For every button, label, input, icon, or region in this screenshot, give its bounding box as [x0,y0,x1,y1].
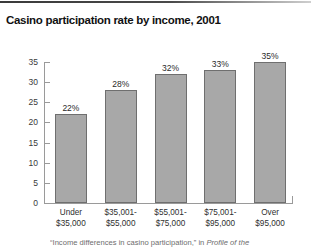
category-label-line: Over [242,208,298,219]
y-axis-tick [45,203,50,204]
x-axis-category-label: Under$35,000 [43,208,99,229]
bar-value-label: 33% [198,59,242,69]
y-axis-tick [45,102,50,103]
bar-rect [105,90,137,203]
bar-value-label: 32% [149,63,193,73]
y-axis-tick [45,143,50,144]
bar[interactable]: 35% [254,62,286,203]
category-label-line: $55,001- [143,208,199,219]
category-label-line: $55,000 [93,219,149,230]
category-label-line: $95,000 [192,219,248,230]
source-note: “Income differences in casino participat… [50,238,305,247]
bar-series: 22%28%32%33%35% [44,62,293,204]
bar-value-label: 28% [99,79,143,89]
bar[interactable]: 22% [55,114,87,203]
y-axis-tick-label: 20 [22,118,38,127]
y-axis-tick-label: 35 [22,58,38,67]
y-axis-tick-label: 30 [22,78,38,87]
y-axis-tick [45,62,50,63]
bar-rect [204,70,236,203]
x-axis-category-label: $75,001-$95,000 [192,208,248,229]
top-divider-rule [0,1,311,3]
category-label-line: $95,000 [242,219,298,230]
y-axis-tick [45,183,50,184]
x-axis-category-labels: Under$35,000$35,001-$55,000$55,001-$75,0… [44,208,293,234]
bar[interactable]: 28% [105,90,137,203]
x-axis-category-label: Over$95,000 [242,208,298,229]
category-label-line: Under [43,208,99,219]
y-axis-tick-label: 15 [22,139,38,148]
chart-plot-area: 22%28%32%33%35% [44,62,293,204]
category-label-line: $75,000 [143,219,199,230]
y-axis-tick-label: 10 [22,159,38,168]
y-axis-tick [45,122,50,123]
category-label-line: $35,001- [93,208,149,219]
bar-value-label: 22% [49,103,93,113]
bar-rect [55,114,87,203]
x-axis-category-label: $55,001-$75,000 [143,208,199,229]
bar-rect [254,62,286,203]
source-note-prefix: “Income differences in casino participat… [50,238,206,247]
y-axis-tick-label: 5 [22,179,38,188]
y-axis-tick-label: 25 [22,98,38,107]
y-axis-tick [45,82,50,83]
bar[interactable]: 32% [155,74,187,203]
bar-rect [155,74,187,203]
page-title: Casino participation rate by income, 200… [6,14,221,26]
category-label-line: $75,001- [192,208,248,219]
y-axis-tick [45,163,50,164]
source-note-italic: Profile of the [206,238,249,247]
category-label-line: $35,000 [43,219,99,230]
bar-value-label: 35% [248,51,292,61]
bar[interactable]: 33% [204,70,236,203]
x-axis-category-label: $35,001-$55,000 [93,208,149,229]
y-axis-tick-label: 0 [22,199,38,208]
